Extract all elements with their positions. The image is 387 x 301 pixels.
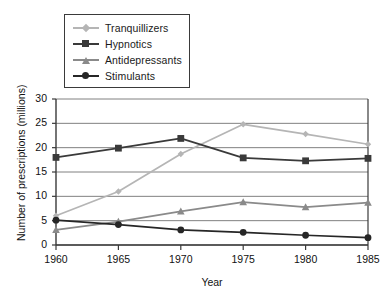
x-tick-label: 1970 — [161, 253, 201, 265]
data-point-stimulants — [177, 227, 184, 234]
x-tick-label: 1980 — [286, 253, 326, 265]
plot-area: Number of prescriptions (millions) Year … — [0, 0, 387, 301]
series-line-stimulants — [56, 220, 368, 238]
x-tick-label: 1985 — [348, 253, 387, 265]
data-point-stimulants — [53, 217, 60, 224]
data-point-stimulants — [240, 229, 247, 236]
series-line-antidepressants — [56, 202, 368, 230]
y-tick-label: 5 — [27, 214, 47, 226]
y-axis-title: Number of prescriptions (millions) — [15, 91, 27, 241]
data-point-hypnotics — [302, 157, 309, 164]
data-point-tranquillizers — [365, 141, 371, 147]
data-point-hypnotics — [177, 135, 184, 142]
x-tick-label: 1965 — [98, 253, 138, 265]
data-point-stimulants — [115, 221, 122, 228]
data-point-hypnotics — [53, 154, 60, 161]
data-point-hypnotics — [240, 154, 247, 161]
data-point-tranquillizers — [302, 131, 308, 137]
y-tick-label: 20 — [27, 141, 47, 153]
y-tick-label: 25 — [27, 116, 47, 128]
y-tick-label: 15 — [27, 165, 47, 177]
data-point-hypnotics — [365, 155, 372, 162]
x-axis-title: Year — [56, 276, 368, 288]
data-point-stimulants — [365, 234, 372, 241]
x-tick-label: 1975 — [223, 253, 263, 265]
x-tick-label: 1960 — [36, 253, 76, 265]
data-point-stimulants — [302, 232, 309, 239]
line-chart-figure: Tranquillizers Hypnotics Antidepressants… — [0, 0, 387, 301]
y-tick-label: 30 — [27, 92, 47, 104]
y-tick-label: 0 — [27, 238, 47, 250]
data-point-tranquillizers — [240, 121, 246, 127]
series-line-tranquillizers — [56, 124, 368, 215]
data-point-hypnotics — [115, 145, 122, 152]
series-line-hypnotics — [56, 138, 368, 160]
y-tick-label: 10 — [27, 189, 47, 201]
